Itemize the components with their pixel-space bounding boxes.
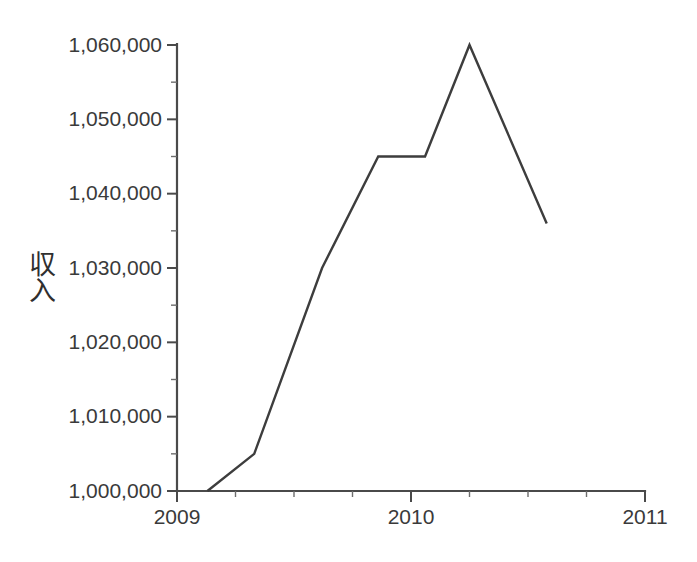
data-series-group bbox=[207, 45, 546, 491]
y-tick-label: 1,020,000 bbox=[69, 330, 162, 353]
y-tick-label: 1,040,000 bbox=[69, 181, 162, 204]
x-tick-label: 2011 bbox=[622, 505, 667, 528]
data-line-収入 bbox=[207, 45, 546, 491]
x-axis: 200920102011 bbox=[154, 491, 668, 528]
y-axis: 1,000,0001,010,0001,020,0001,030,0001,04… bbox=[69, 33, 177, 502]
y-axis-title: 収 入 bbox=[22, 252, 62, 305]
x-tick-label: 2010 bbox=[388, 505, 435, 528]
y-tick-label: 1,000,000 bbox=[69, 479, 162, 502]
y-tick-label: 1,050,000 bbox=[69, 107, 162, 130]
chart-container: 1,000,0001,010,0001,020,0001,030,0001,04… bbox=[0, 0, 697, 562]
line-chart: 1,000,0001,010,0001,020,0001,030,0001,04… bbox=[0, 0, 697, 562]
x-tick-label: 2009 bbox=[154, 505, 201, 528]
y-tick-label: 1,010,000 bbox=[69, 404, 162, 427]
y-axis-title-char-2: 入 bbox=[22, 278, 62, 304]
y-tick-label: 1,030,000 bbox=[69, 256, 162, 279]
y-tick-label: 1,060,000 bbox=[69, 33, 162, 56]
